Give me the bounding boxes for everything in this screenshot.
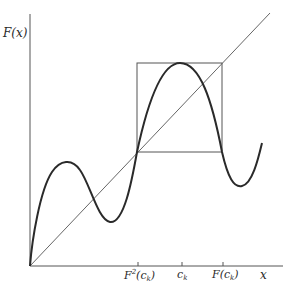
x-axis-label: x bbox=[260, 268, 267, 282]
y-axis-label: F(x) bbox=[3, 26, 27, 40]
tick-label-ck: ck bbox=[177, 268, 187, 282]
tick-label-f-ck: F(ck) bbox=[212, 268, 239, 282]
diagonal-line bbox=[30, 13, 270, 266]
diagram-canvas bbox=[0, 0, 291, 291]
function-curve bbox=[30, 63, 262, 266]
tick-label-f2-ck: F2(ck) bbox=[124, 268, 155, 283]
